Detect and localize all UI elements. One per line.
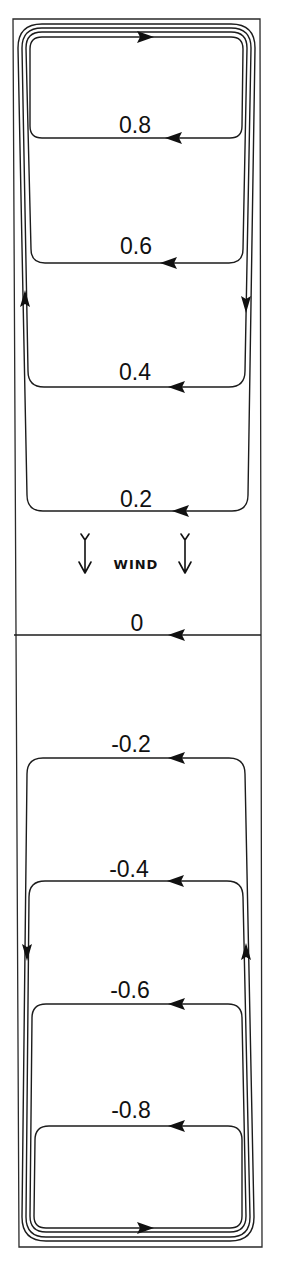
- contour-label-0.4: 0.4: [119, 359, 151, 385]
- arrow-up-icon: [241, 943, 251, 960]
- streamline-0.6: [26, 32, 247, 263]
- contour-label-neg-0.2: -0.2: [111, 731, 151, 757]
- wind-arrow-right-icon: [179, 534, 191, 573]
- streamline-diagram: 0.8 0.6 0.4 0.2 WIND 0 -0.2 -0.: [0, 0, 281, 1274]
- wind-indicator: WIND: [79, 534, 191, 573]
- lower-cell: -0.2 -0.4 -0.6 -0.8: [22, 731, 254, 1241]
- arrow-down-icon: [22, 944, 32, 961]
- streamline-0.2: [18, 24, 255, 511]
- streamline-0.4: [22, 28, 251, 387]
- zero-streamline: 0: [14, 610, 261, 641]
- streamline-neg-0.8: [34, 1126, 242, 1228]
- streamline-neg-0.4: [26, 881, 250, 1237]
- wind-arrow-left-icon: [79, 534, 91, 573]
- contour-label-0.2: 0.2: [120, 486, 152, 512]
- wind-label: WIND: [114, 557, 159, 572]
- contour-label-0.6: 0.6: [120, 233, 152, 259]
- contour-label-0.8: 0.8: [119, 112, 151, 138]
- contour-label-neg-0.4: -0.4: [109, 856, 149, 882]
- contour-label-0: 0: [131, 610, 144, 636]
- arrow-up-icon: [20, 290, 30, 307]
- contour-label-neg-0.8: -0.8: [111, 1097, 151, 1123]
- contour-label-neg-0.6: -0.6: [110, 977, 150, 1003]
- upper-cell: 0.8 0.6 0.4 0.2: [18, 24, 255, 517]
